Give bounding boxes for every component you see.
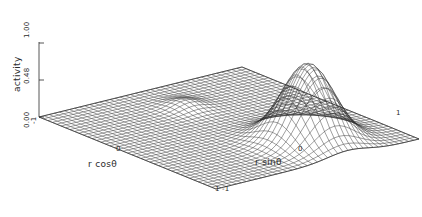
left-horizontal-axis-label: r cosθ <box>88 160 117 169</box>
vertical-tick-label-max: 1.00 <box>24 22 31 38</box>
right-corner-tick-label: 1 <box>396 110 401 117</box>
mesh-line-v <box>75 108 252 180</box>
left-horizontal-origin-tick-label: 0 <box>116 146 121 153</box>
mesh-line-v <box>69 110 246 182</box>
mesh-line-v <box>146 91 323 160</box>
right-horizontal-axis-label: r sinθ <box>255 158 282 167</box>
mesh-line-v <box>212 75 389 146</box>
surface-wireframe-mesh <box>39 63 419 189</box>
mesh-line-v <box>49 115 226 187</box>
right-horizontal-origin-tick-label: 0 <box>298 146 303 153</box>
mesh-line-u <box>203 126 406 184</box>
vertical-tick-label-mid: 0.48 <box>24 68 31 84</box>
surface-plot-figure: activity 1.00 0.48 0.00 -1 r cosθ 0 r si… <box>0 0 422 217</box>
mesh-line-v <box>59 112 236 184</box>
left-axis-min-tick-label: -1 <box>31 117 38 124</box>
mesh-line-v <box>54 113 231 185</box>
plot-canvas <box>0 0 422 217</box>
mesh-line-v <box>237 68 414 140</box>
mesh-line-v <box>95 103 272 175</box>
mesh-line-v <box>44 116 221 188</box>
mesh-line-v <box>191 80 368 148</box>
mesh-line-v <box>171 63 348 150</box>
mesh-line-v <box>64 111 241 183</box>
mesh-line-v <box>232 70 409 142</box>
vertical-axis-label: activity <box>13 56 22 92</box>
axis-lines <box>39 42 44 117</box>
front-corner-tick-labels: 1 -1 <box>215 186 229 193</box>
